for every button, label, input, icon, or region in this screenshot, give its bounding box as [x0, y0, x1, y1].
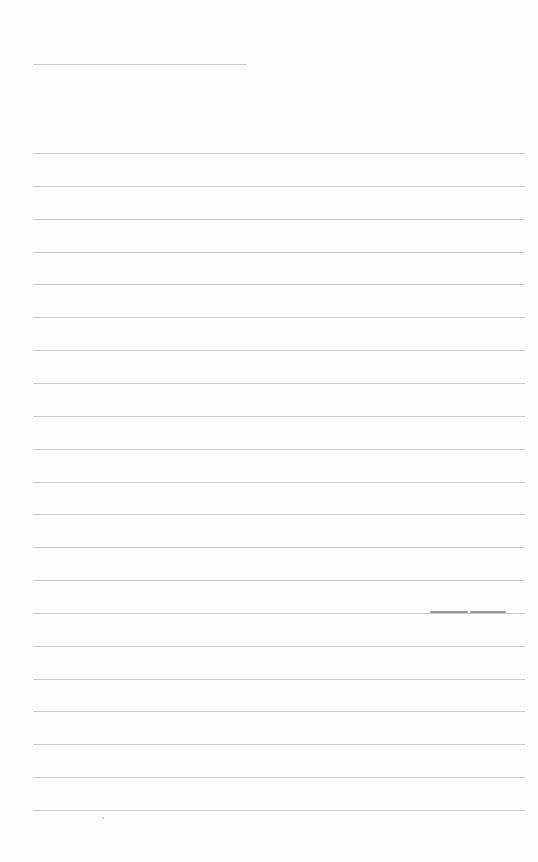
ruled-line: [33, 186, 525, 187]
ruled-line: [33, 744, 525, 745]
ruled-line: [33, 777, 525, 778]
ruled-line: [33, 679, 525, 680]
ruled-line: [33, 219, 525, 220]
ruled-line: [33, 646, 525, 647]
paper-speck: [102, 817, 104, 819]
ruled-line: [33, 153, 525, 154]
ruled-line: [33, 482, 525, 483]
ruled-line: [33, 350, 525, 351]
ruled-line: [33, 547, 525, 548]
ink-mark: [470, 611, 506, 613]
ruled-line: [33, 580, 525, 581]
header-rule: [33, 64, 246, 65]
ruled-line: [33, 514, 525, 515]
ruled-line: [33, 711, 525, 712]
lined-paper-page: [0, 0, 538, 862]
ink-mark: [430, 611, 468, 613]
ruled-line: [33, 613, 525, 614]
ruled-line: [33, 416, 525, 417]
ruled-line: [33, 317, 525, 318]
ruled-line: [33, 284, 525, 285]
ruled-line: [33, 449, 525, 450]
ruled-line: [33, 383, 525, 384]
ruled-line: [33, 252, 525, 253]
ruled-line: [33, 810, 525, 811]
